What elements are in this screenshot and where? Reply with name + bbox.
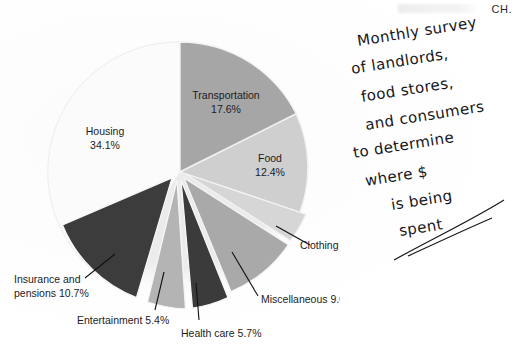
hw-line-6: where $ xyxy=(364,162,429,190)
label-health-care: Health care 5.7% xyxy=(181,327,262,339)
label-insurance-pensions-line1: Insurance and xyxy=(14,273,81,285)
hw-line-7: is being xyxy=(390,186,454,213)
scanned-page-surface: CH. xyxy=(0,0,518,348)
hw-line-8: spent xyxy=(398,215,444,240)
scan-artifact-smudge xyxy=(398,4,476,13)
hw-line-2: of landlords, xyxy=(350,45,450,78)
handwritten-annotation: Monthly survey of landlords, food stores… xyxy=(352,22,516,252)
label-insurance-pensions-line2: pensions 10.7% xyxy=(14,287,89,299)
hw-line-3: food stores, xyxy=(360,74,455,106)
hw-line-1: Monthly survey xyxy=(356,13,478,50)
label-food-name: Food xyxy=(258,152,282,164)
label-transportation-name: Transportation xyxy=(192,89,259,101)
label-housing-value: 34.1% xyxy=(90,139,120,151)
label-insurance-pensions: Insurance and pensions 10.7% xyxy=(14,273,89,299)
label-miscellaneous: Miscellaneous 9.0% xyxy=(261,293,340,305)
label-food-value: 12.4% xyxy=(255,166,285,178)
label-housing-name: Housing xyxy=(86,125,125,137)
pie-chart-figure: Transportation 17.6% Housing 34.1% Food … xyxy=(0,0,340,348)
label-entertainment: Entertainment 5.4% xyxy=(77,314,169,326)
label-transportation-value: 17.6% xyxy=(211,103,241,115)
chapter-mark-text: CH. xyxy=(492,3,512,15)
label-clothing: Clothing 3.8% xyxy=(300,239,340,251)
